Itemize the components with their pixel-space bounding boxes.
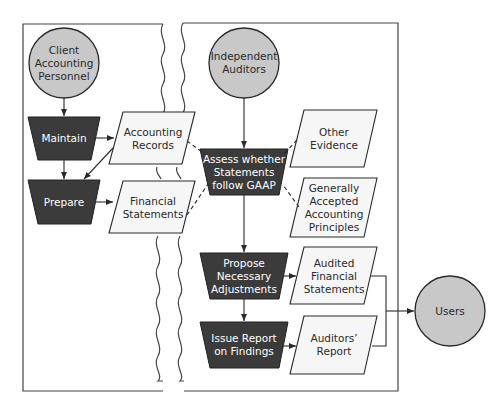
accounting-records-document xyxy=(109,112,195,164)
gaap-document xyxy=(290,178,377,237)
propose-process xyxy=(200,253,288,299)
auditors-report-document xyxy=(290,316,377,374)
independent-auditors-entity xyxy=(209,28,279,98)
financial-statements-document xyxy=(109,181,195,233)
auditor-frame-wavy-edge-mid xyxy=(176,167,181,179)
maintain-process xyxy=(28,117,100,160)
dashed-gaap-to-assess xyxy=(283,185,299,207)
issue-report-process xyxy=(200,322,288,368)
audited-financial-statements-document xyxy=(290,247,377,304)
client-frame-wavy-edge xyxy=(156,236,163,381)
prepare-process xyxy=(28,180,100,224)
auditor-frame-wavy-edge-lower xyxy=(178,236,184,381)
users-entity xyxy=(415,276,485,346)
assess-process xyxy=(200,149,288,195)
client-frame-wavy-edge-mid xyxy=(156,167,161,179)
auditor-frame-wavy-edge xyxy=(181,23,184,113)
audit-process-diagram xyxy=(0,0,504,408)
client-personnel-entity xyxy=(29,28,99,98)
other-evidence-document xyxy=(290,110,377,167)
